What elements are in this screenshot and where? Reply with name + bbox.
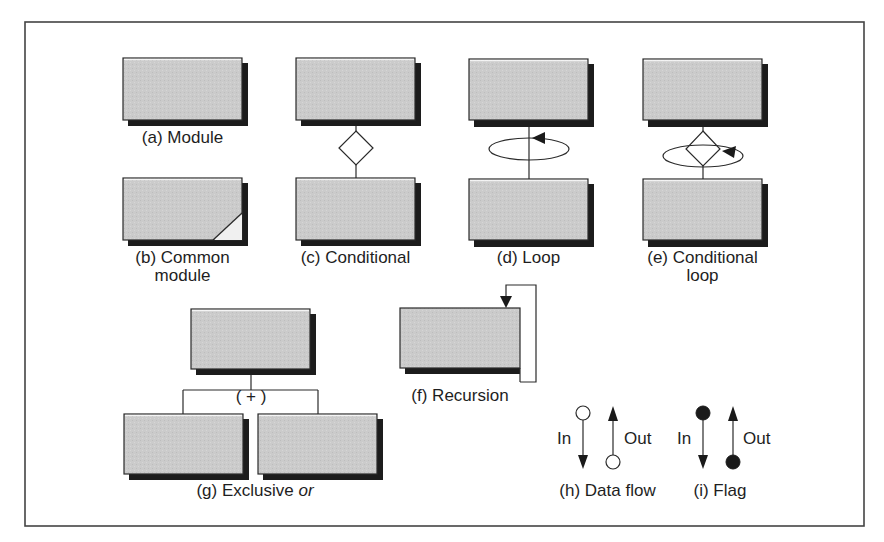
- conditional-loop-label-line2: loop: [633, 266, 772, 285]
- recursion-arrow-icon: [500, 296, 512, 308]
- conditional-loop-diamond-icon: [686, 131, 720, 166]
- flag-in-dot-icon: [696, 406, 710, 420]
- data-flow-symbol: [576, 406, 620, 469]
- conditional-top-box: [296, 58, 415, 120]
- conditional-symbol: [296, 58, 421, 246]
- exclusive-or-label-italic: or: [298, 481, 313, 500]
- module-box: [123, 58, 242, 120]
- xor-marker: ( + ): [221, 387, 281, 406]
- conditional-bottom-box: [296, 178, 415, 240]
- data-flow-label: (h) Data flow: [550, 481, 665, 500]
- common-module-label-line1: (b) Common: [113, 248, 252, 267]
- loop-label: (d) Loop: [459, 248, 598, 267]
- conditional-loop-symbol: [643, 59, 768, 247]
- data-flow-in-label: In: [557, 429, 571, 448]
- common-module-label-line2: module: [113, 266, 252, 285]
- data-flow-in-circle-icon: [576, 406, 590, 420]
- flag-symbol: [696, 406, 740, 469]
- exclusive-or-label: (g) Exclusive or: [150, 481, 360, 500]
- flag-in-arrow-icon: [698, 455, 708, 469]
- xor-left-child-box: [124, 414, 243, 474]
- flag-label: (i) Flag: [670, 481, 770, 500]
- loop-symbol: [469, 59, 594, 247]
- flag-in-label: In: [677, 429, 691, 448]
- recursion-box: [400, 308, 520, 368]
- common-module-symbol: [123, 178, 248, 246]
- module-symbol: [123, 58, 248, 126]
- module-label: (a) Module: [123, 128, 242, 147]
- recursion-label: (f) Recursion: [395, 386, 525, 405]
- flag-out-dot-icon: [726, 455, 740, 469]
- loop-bottom-box: [469, 179, 588, 240]
- xor-parent-box: [191, 309, 310, 369]
- conditional-loop-bottom-box: [643, 179, 762, 240]
- loop-top-box: [469, 59, 588, 120]
- structure-chart-notation-figure: (a) Module (b) Common module (c) Conditi…: [0, 0, 884, 542]
- recursion-symbol: [400, 285, 536, 382]
- decision-diamond-icon: [339, 131, 373, 165]
- loop-arrow-icon: [532, 132, 545, 144]
- xor-right-child-box: [258, 414, 377, 474]
- data-flow-out-arrow-icon: [608, 406, 618, 421]
- flag-out-arrow-icon: [728, 406, 738, 421]
- data-flow-in-arrow-icon: [578, 455, 588, 469]
- data-flow-out-circle-icon: [606, 455, 620, 469]
- conditional-loop-label-line1: (e) Conditional: [633, 248, 772, 267]
- exclusive-or-label-prefix: (g) Exclusive: [196, 481, 298, 500]
- flag-out-label: Out: [743, 429, 770, 448]
- conditional-label: (c) Conditional: [286, 248, 425, 267]
- conditional-loop-top-box: [643, 59, 762, 120]
- data-flow-out-label: Out: [624, 429, 651, 448]
